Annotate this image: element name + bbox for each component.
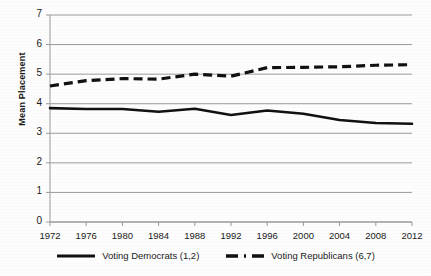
chart-legend: Voting Democrats (1,2)Voting Republicans… <box>0 250 431 261</box>
legend-label: Voting Republicans (6,7) <box>271 250 375 261</box>
axis-lines <box>50 15 412 222</box>
chart-container: Mean Placement 01234567 1972197619801984… <box>0 0 431 276</box>
series-line-1 <box>50 108 412 124</box>
plot-area <box>0 0 431 276</box>
legend-label: Voting Democrats (1,2) <box>102 250 199 261</box>
legend-item-2[interactable]: Voting Republicans (6,7) <box>225 250 375 261</box>
data-series-layer <box>50 65 412 124</box>
x-axis-ticks <box>50 222 412 226</box>
solid-line-swatch <box>56 251 96 261</box>
gridlines <box>50 15 412 222</box>
legend-item-1[interactable]: Voting Democrats (1,2) <box>56 250 199 261</box>
dashed-line-swatch <box>225 251 265 261</box>
series-line-2 <box>50 65 412 86</box>
y-axis-ticks <box>46 15 50 222</box>
